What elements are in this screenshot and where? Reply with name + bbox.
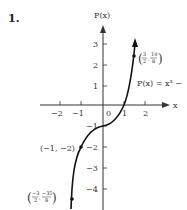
- svg-text:): ): [158, 52, 163, 66]
- y-axis-label: P(x): [94, 11, 110, 20]
- y-tick-label: −3: [86, 164, 98, 173]
- y-axis-arrow-icon: [100, 25, 106, 33]
- point-minus1: [79, 145, 83, 149]
- svg-text:8: 8: [45, 197, 48, 203]
- curve-arrow-up-icon: [132, 38, 138, 47]
- svg-text:19: 19: [151, 51, 157, 57]
- y-tick-label: 1: [93, 82, 98, 91]
- y-tick-label: −1: [86, 122, 98, 131]
- point-label-bottom: ( −3 2 , −35 8 ): [27, 190, 57, 205]
- svg-text:2: 2: [143, 58, 146, 64]
- x-axis-label: x: [173, 101, 178, 110]
- point-top: [132, 54, 136, 58]
- svg-text:,: ,: [39, 194, 41, 200]
- x-tick-label: −1: [72, 109, 84, 118]
- function-label: P(x) = x³ −: [137, 79, 182, 88]
- svg-text:3: 3: [143, 51, 146, 57]
- svg-text:8: 8: [152, 58, 155, 64]
- point-label-minus1: (−1, −2): [40, 144, 75, 153]
- svg-text:): ): [52, 191, 57, 205]
- y-tick-label: −2: [86, 143, 98, 152]
- x-tick-label: 1: [122, 109, 127, 118]
- svg-text:−35: −35: [42, 190, 53, 196]
- x-tick-label: 2: [143, 109, 148, 118]
- point-bottom: [70, 197, 74, 201]
- y-tick-label: 3: [93, 40, 98, 49]
- y-tick-label: −4: [86, 185, 98, 194]
- svg-text:(: (: [27, 191, 32, 205]
- x-axis-arrow-icon: [162, 102, 170, 108]
- svg-text:(: (: [138, 52, 143, 66]
- y-tick-label: 2: [93, 61, 98, 70]
- cubic-graph: x P(x) −2 −1 0 1 2 3 2 1 −1 −2 −3 −4 (−1…: [0, 0, 187, 210]
- svg-text:,: ,: [148, 55, 150, 61]
- svg-text:2: 2: [34, 197, 37, 203]
- x-tick-label: 0: [106, 109, 111, 118]
- point-label-top: ( 3 2 , 19 8 ): [138, 51, 163, 66]
- x-tick-label: −2: [51, 109, 63, 118]
